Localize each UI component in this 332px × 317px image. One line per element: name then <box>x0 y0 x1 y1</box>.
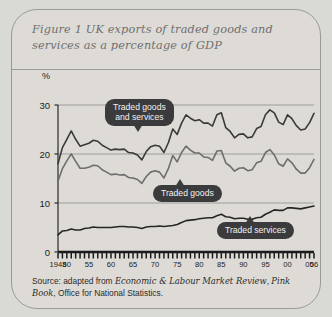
x-tick-label: 06 <box>302 260 326 269</box>
callout-services: Traded services <box>217 222 294 239</box>
y-tick-label: 0 <box>24 247 50 258</box>
callout-goods: Traded goods <box>153 185 222 202</box>
source-suffix: , Office for National Statistics. <box>53 288 163 298</box>
y-tick-label: 30 <box>24 100 50 111</box>
x-tick-label: 70 <box>143 260 167 269</box>
source-publication-1: Economic & Labour Market Review <box>115 276 267 286</box>
source-note: Source: adapted from Economic & Labour M… <box>32 276 308 299</box>
x-tick-label: 80 <box>187 260 211 269</box>
callout-pointer-goods <box>175 179 185 187</box>
x-tick-label: 55 <box>77 260 101 269</box>
figure-card: Figure 1 UK exports of traded goods and … <box>11 9 321 309</box>
x-tick-label: 85 <box>209 260 233 269</box>
x-tick-label: 00 <box>276 260 300 269</box>
y-tick-label: 20 <box>24 149 50 160</box>
callout-pointer-services <box>245 216 255 224</box>
x-tick-label: 75 <box>165 260 189 269</box>
source-prefix: Source: adapted from <box>32 276 115 286</box>
callout-pointer-total <box>133 124 143 132</box>
chart-plot-area: % 3020100194850556065707580859095000506T… <box>12 70 322 270</box>
figure-title: Figure 1 UK exports of traded goods and … <box>32 22 304 53</box>
x-tick-label: 65 <box>121 260 145 269</box>
y-tick-label: 10 <box>24 198 50 209</box>
x-tick-label: 90 <box>231 260 255 269</box>
x-tick-label: 50 <box>55 260 79 269</box>
x-tick-label: 95 <box>253 260 277 269</box>
callout-total: Traded goods and services <box>105 99 174 126</box>
x-tick-label: 60 <box>99 260 123 269</box>
